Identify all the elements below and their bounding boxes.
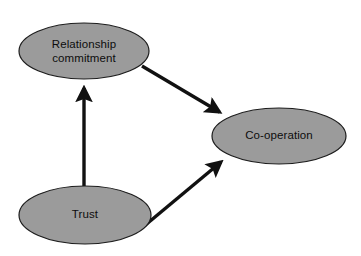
node-trust[interactable]: Trust (19, 186, 151, 244)
edge-line-relationship-commitment-to-co-operation (142, 66, 220, 112)
node-label-relationship-commitment-line1: Relationship (52, 38, 117, 50)
node-label-trust: Trust (72, 208, 99, 220)
node-shape-relationship-commitment[interactable] (19, 23, 149, 79)
diagram-canvas: Relationship commitment Co-operation Tru… (0, 0, 361, 256)
node-label-co-operation: Co-operation (245, 129, 313, 141)
edge-trust-to-co-operation (143, 162, 221, 227)
node-label-relationship-commitment-line2: commitment (52, 52, 116, 64)
edge-relationship-commitment-to-co-operation (142, 66, 220, 112)
edge-line-trust-to-co-operation (143, 162, 221, 227)
node-relationship-commitment[interactable]: Relationship commitment (19, 23, 149, 79)
node-co-operation[interactable]: Co-operation (212, 108, 346, 164)
path-diagram-svg: Relationship commitment Co-operation Tru… (0, 0, 361, 256)
